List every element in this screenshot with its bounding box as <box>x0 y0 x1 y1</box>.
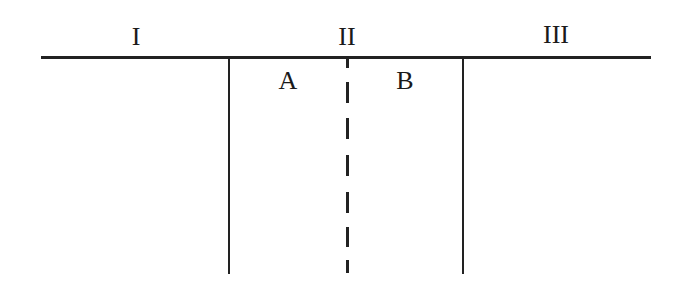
right-vertical-line <box>462 58 464 274</box>
region-label-i: I <box>132 24 141 50</box>
dash-segment <box>346 118 349 139</box>
left-vertical-line <box>228 58 230 274</box>
dash-segment <box>346 155 349 176</box>
subregion-label-b: B <box>396 68 413 94</box>
subregion-label-a: A <box>279 68 298 94</box>
dash-segment <box>346 82 349 103</box>
dash-segment <box>346 192 349 213</box>
dash-segment <box>346 227 349 247</box>
region-label-iii: III <box>543 22 569 48</box>
dash-segment <box>346 260 349 273</box>
region-label-ii: II <box>338 24 355 50</box>
dash-segment <box>346 58 349 68</box>
